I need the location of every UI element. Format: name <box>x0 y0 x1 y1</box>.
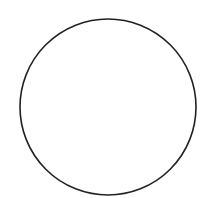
diagram-canvas <box>0 0 210 198</box>
circle-shape <box>20 19 196 195</box>
